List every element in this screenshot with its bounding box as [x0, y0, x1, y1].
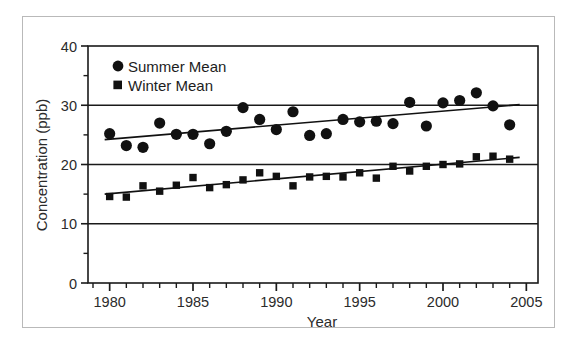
- y-tick-label-10: 10: [61, 216, 77, 232]
- data-point-winter-mean-1985: [189, 174, 196, 181]
- data-point-winter-mean-1987: [223, 181, 230, 188]
- data-point-winter-mean-1995: [356, 169, 363, 176]
- data-point-winter-mean-1996: [373, 174, 380, 181]
- data-point-winter-mean-1999: [423, 163, 430, 170]
- data-point-summer-mean-1982: [137, 142, 148, 153]
- concentration-scatter-chart: 010203040 198019851990199520002005 Summe…: [0, 0, 580, 347]
- x-axis-title: Year: [307, 313, 337, 330]
- y-axis-ticks: [81, 46, 88, 283]
- x-tick-label-2005: 2005: [510, 294, 542, 310]
- data-point-summer-mean-1990: [271, 124, 282, 135]
- x-axis-ticks: [93, 283, 526, 291]
- data-point-summer-mean-1997: [387, 118, 398, 129]
- data-point-winter-mean-2000: [439, 161, 446, 168]
- data-point-summer-mean-1986: [204, 138, 215, 149]
- data-point-summer-mean-1983: [154, 117, 165, 128]
- figure-root: 010203040 198019851990199520002005 Summe…: [0, 0, 580, 347]
- data-point-winter-mean-1980: [106, 193, 113, 200]
- data-point-winter-mean-2001: [456, 160, 463, 167]
- x-axis-tick-labels: 198019851990199520002005: [94, 294, 543, 310]
- data-point-summer-mean-1987: [221, 126, 232, 137]
- data-point-winter-mean-1983: [156, 187, 163, 194]
- data-point-summer-mean-1991: [287, 106, 298, 117]
- data-point-summer-mean-1993: [321, 128, 332, 139]
- data-point-winter-mean-2002: [473, 153, 480, 160]
- data-point-winter-mean-1998: [406, 167, 413, 174]
- x-tick-label-2000: 2000: [427, 294, 459, 310]
- data-point-winter-mean-2003: [489, 153, 496, 160]
- data-point-summer-mean-1985: [187, 129, 198, 140]
- data-point-winter-mean-1982: [139, 182, 146, 189]
- data-point-summer-mean-2002: [471, 87, 482, 98]
- data-point-summer-mean-1995: [354, 116, 365, 127]
- legend-summer-circle-icon: [113, 61, 124, 72]
- data-point-summer-mean-1994: [337, 114, 348, 125]
- y-tick-label-40: 40: [61, 39, 77, 55]
- data-point-winter-mean-1997: [389, 163, 396, 170]
- data-point-winter-mean-1986: [206, 184, 213, 191]
- data-point-winter-mean-2004: [506, 155, 513, 162]
- data-point-winter-mean-1988: [239, 176, 246, 183]
- y-axis-tick-labels: 010203040: [61, 39, 77, 292]
- legend-summer-label: Summer Mean: [128, 58, 226, 75]
- data-point-summer-mean-2000: [437, 97, 448, 108]
- data-point-summer-mean-1980: [104, 128, 115, 139]
- data-point-summer-mean-1996: [371, 116, 382, 127]
- legend-winter-square-icon: [113, 81, 122, 90]
- data-point-winter-mean-1990: [273, 173, 280, 180]
- data-point-winter-mean-1993: [323, 173, 330, 180]
- x-tick-label-1995: 1995: [344, 294, 376, 310]
- data-point-winter-mean-1984: [173, 182, 180, 189]
- data-point-winter-mean-1989: [256, 169, 263, 176]
- data-point-summer-mean-2004: [504, 119, 515, 130]
- y-tick-label-0: 0: [69, 276, 77, 292]
- x-tick-label-1980: 1980: [94, 294, 126, 310]
- data-point-winter-mean-1981: [123, 193, 130, 200]
- data-point-winter-mean-1994: [339, 173, 346, 180]
- y-tick-label-30: 30: [61, 98, 77, 114]
- data-point-summer-mean-1984: [171, 129, 182, 140]
- data-point-summer-mean-1998: [404, 97, 415, 108]
- data-point-summer-mean-1988: [237, 102, 248, 113]
- x-tick-label-1985: 1985: [177, 294, 209, 310]
- data-point-summer-mean-1989: [254, 114, 265, 125]
- data-point-winter-mean-1992: [306, 173, 313, 180]
- data-point-summer-mean-2003: [487, 100, 498, 111]
- y-axis-title: Concentration (ppb): [33, 99, 50, 232]
- y-tick-label-20: 20: [61, 157, 77, 173]
- data-point-summer-mean-1999: [421, 120, 432, 131]
- x-tick-label-1990: 1990: [260, 294, 292, 310]
- data-point-summer-mean-2001: [454, 95, 465, 106]
- data-point-summer-mean-1981: [121, 140, 132, 151]
- legend-winter-label: Winter Mean: [128, 77, 213, 94]
- data-point-summer-mean-1992: [304, 130, 315, 141]
- data-point-winter-mean-1991: [289, 182, 296, 189]
